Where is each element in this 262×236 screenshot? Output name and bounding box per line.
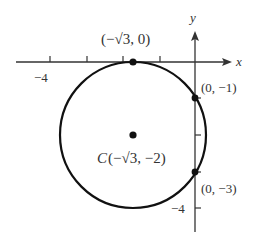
x-tick-label: −4 <box>34 70 48 85</box>
y-intercept-lower-label: (0, −3) <box>201 181 237 196</box>
coordinate-plane: x y −4 −4 (−√3, 0) (0, −1) (0, −3) C (−√… <box>0 0 262 236</box>
x-axis-label: x <box>235 54 242 69</box>
y-intercept-upper-point <box>192 95 199 102</box>
x-ticks <box>50 56 160 62</box>
y-tick-label: −4 <box>171 201 185 216</box>
tangent-point-label: (−√3, 0) <box>101 31 150 48</box>
tangent-point <box>129 58 136 65</box>
center-label-letter: C <box>97 150 108 166</box>
center-point <box>129 131 136 138</box>
y-intercept-lower-point <box>192 169 199 176</box>
y-axis-label: y <box>188 10 196 25</box>
center-label-coords: (−√3, −2) <box>108 150 166 167</box>
y-intercept-upper-label: (0, −1) <box>201 80 237 95</box>
